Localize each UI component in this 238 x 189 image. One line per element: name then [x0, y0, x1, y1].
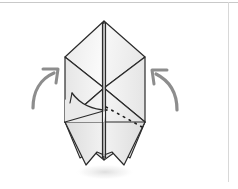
left-fold-arrow: [33, 69, 58, 108]
center-spine: [103, 22, 106, 158]
right-arrow-shaft: [156, 74, 177, 110]
left-arrow-shaft: [33, 73, 54, 108]
front-flap-left: [65, 122, 104, 165]
origami-figure: Origami fold step diagram Line drawing o…: [0, 0, 238, 189]
model-shadow: [75, 164, 135, 180]
origami-diagram-panel: Origami fold step diagram Line drawing o…: [0, 0, 238, 189]
front-flap-right: [104, 122, 145, 165]
right-fold-arrow: [152, 70, 177, 110]
